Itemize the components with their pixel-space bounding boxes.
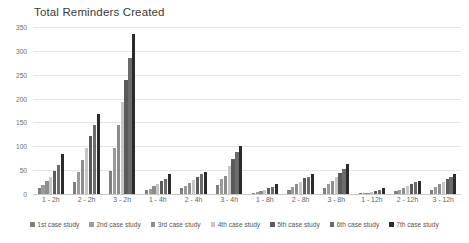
bar[interactable] xyxy=(61,154,64,194)
bar[interactable] xyxy=(398,190,401,194)
bar[interactable] xyxy=(370,192,373,194)
bar[interactable] xyxy=(335,177,338,194)
bar[interactable] xyxy=(434,187,437,194)
bar[interactable] xyxy=(311,174,314,194)
bar[interactable] xyxy=(124,80,127,195)
bar[interactable] xyxy=(438,184,441,194)
legend-item[interactable]: 2nd case study xyxy=(89,221,140,228)
bar-group xyxy=(425,27,461,194)
bar[interactable] xyxy=(97,114,100,194)
bar[interactable] xyxy=(204,172,207,194)
bar[interactable] xyxy=(38,188,41,194)
bar-group xyxy=(33,27,69,194)
legend-item[interactable]: 7th case study xyxy=(389,221,439,228)
bar[interactable] xyxy=(49,177,52,194)
bar[interactable] xyxy=(81,160,84,194)
bar[interactable] xyxy=(453,174,456,194)
bar[interactable] xyxy=(295,184,298,194)
bar[interactable] xyxy=(192,180,195,194)
bar[interactable] xyxy=(374,191,377,194)
legend-item[interactable]: 5th case study xyxy=(270,221,320,228)
bar[interactable] xyxy=(256,192,259,194)
bar[interactable] xyxy=(93,125,96,194)
bar[interactable] xyxy=(224,176,227,194)
bar[interactable] xyxy=(331,181,334,194)
bar[interactable] xyxy=(53,171,56,194)
bar[interactable] xyxy=(200,174,203,194)
bar[interactable] xyxy=(235,152,238,194)
bar[interactable] xyxy=(418,181,421,194)
bar[interactable] xyxy=(382,188,385,194)
bar[interactable] xyxy=(109,171,112,194)
legend-item[interactable]: 6th case study xyxy=(330,221,380,228)
bar[interactable] xyxy=(85,148,88,194)
y-axis-tick-label: 100 xyxy=(16,143,27,150)
chart-legend: 1st case study2nd case study3rd case stu… xyxy=(0,221,469,228)
bar[interactable] xyxy=(366,193,369,194)
bar[interactable] xyxy=(196,177,199,194)
bar[interactable] xyxy=(73,182,76,194)
bar[interactable] xyxy=(45,181,48,194)
bar[interactable] xyxy=(327,184,330,194)
legend-item[interactable]: 3rd case study xyxy=(151,221,201,228)
bar[interactable] xyxy=(346,164,349,194)
bar[interactable] xyxy=(275,184,278,194)
bar[interactable] xyxy=(252,193,255,194)
bar[interactable] xyxy=(271,187,274,194)
bar[interactable] xyxy=(338,173,341,194)
bar[interactable] xyxy=(307,177,310,194)
legend-label: 4th case study xyxy=(218,221,261,228)
bar[interactable] xyxy=(228,166,231,194)
bar[interactable] xyxy=(259,191,262,194)
bar[interactable] xyxy=(231,159,234,194)
bar[interactable] xyxy=(323,188,326,194)
bar[interactable] xyxy=(113,148,116,194)
bar[interactable] xyxy=(77,172,80,194)
bar[interactable] xyxy=(117,125,120,194)
bar[interactable] xyxy=(359,193,362,194)
bar[interactable] xyxy=(402,188,405,194)
bar[interactable] xyxy=(406,186,409,194)
bar[interactable] xyxy=(342,169,345,194)
bar[interactable] xyxy=(430,190,433,194)
bar[interactable] xyxy=(41,185,44,194)
bar[interactable] xyxy=(160,181,163,194)
bar[interactable] xyxy=(128,58,131,194)
bar[interactable] xyxy=(291,187,294,194)
bar[interactable] xyxy=(267,188,270,194)
bar[interactable] xyxy=(363,193,366,194)
bar[interactable] xyxy=(239,146,242,194)
bar[interactable] xyxy=(121,102,124,194)
legend-item[interactable]: 1st case study xyxy=(30,221,79,228)
bar[interactable] xyxy=(132,34,135,194)
bar[interactable] xyxy=(180,188,183,194)
legend-item[interactable]: 4th case study xyxy=(211,221,261,228)
bar[interactable] xyxy=(216,185,219,194)
bar[interactable] xyxy=(152,186,155,194)
bar[interactable] xyxy=(220,179,223,194)
bar[interactable] xyxy=(168,174,171,194)
plot-area xyxy=(33,27,461,194)
bar[interactable] xyxy=(442,182,445,194)
bar[interactable] xyxy=(299,182,302,194)
bar[interactable] xyxy=(149,189,152,194)
bar[interactable] xyxy=(394,191,397,194)
bar[interactable] xyxy=(57,165,60,194)
bar[interactable] xyxy=(156,184,159,194)
x-axis-tick-label: 2 - 2h xyxy=(69,196,105,203)
bar[interactable] xyxy=(145,190,148,194)
bar[interactable] xyxy=(263,190,266,194)
bar[interactable] xyxy=(184,186,187,194)
bar[interactable] xyxy=(449,177,452,194)
bar[interactable] xyxy=(378,190,381,194)
bar[interactable] xyxy=(164,179,167,194)
bar[interactable] xyxy=(446,179,449,194)
bar[interactable] xyxy=(89,136,92,194)
bar[interactable] xyxy=(410,184,413,194)
bar[interactable] xyxy=(287,190,290,194)
x-axis-tick-label: 2 - 4h xyxy=(176,196,212,203)
bar[interactable] xyxy=(414,182,417,194)
bar[interactable] xyxy=(303,178,306,194)
x-axis-line xyxy=(33,194,461,195)
bar[interactable] xyxy=(188,183,191,194)
